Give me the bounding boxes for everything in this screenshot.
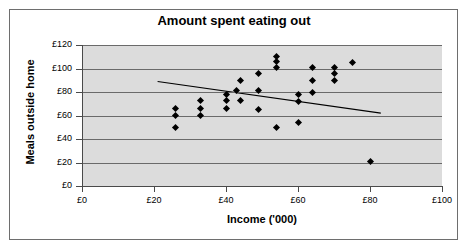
x-tick-mark	[82, 186, 83, 192]
y-tick-mark	[76, 116, 82, 117]
gridline-y	[82, 116, 442, 117]
gridline-y	[82, 69, 442, 70]
y-axis-line	[82, 45, 83, 187]
x-axis-line	[82, 186, 443, 187]
x-tick-label: £20	[134, 195, 174, 205]
gridline-y	[82, 45, 442, 46]
plot-area	[82, 45, 442, 186]
x-tick-label: £80	[350, 195, 390, 205]
y-axis-title: Meals outside home	[24, 32, 36, 192]
gridline-y	[82, 92, 442, 93]
chart-figure: Amount spent eating out £0£20£40£60£80£1…	[0, 0, 468, 250]
y-tick-mark	[76, 163, 82, 164]
trendline	[158, 81, 381, 113]
x-tick-mark	[154, 186, 155, 192]
gridline-y	[82, 163, 442, 164]
x-tick-label: £60	[278, 195, 318, 205]
x-tick-label: £40	[206, 195, 246, 205]
gridline-y	[82, 139, 442, 140]
x-tick-label: £100	[422, 195, 462, 205]
x-tick-mark	[298, 186, 299, 192]
x-tick-mark	[370, 186, 371, 192]
x-tick-mark	[442, 186, 443, 192]
chart-title: Amount spent eating out	[0, 13, 468, 28]
y-tick-mark	[76, 139, 82, 140]
x-axis-title: Income ('000)	[82, 213, 442, 225]
x-tick-mark	[226, 186, 227, 192]
y-tick-mark	[76, 92, 82, 93]
x-tick-label: £0	[62, 195, 102, 205]
y-tick-mark	[76, 69, 82, 70]
y-tick-mark	[76, 45, 82, 46]
